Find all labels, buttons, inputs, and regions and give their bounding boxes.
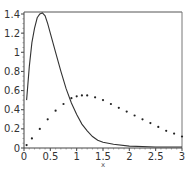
dotted-curve-point bbox=[81, 94, 83, 96]
chart: 00.511.522.53 00.20.40.60.811.21.4 x bbox=[0, 0, 196, 169]
dotted-curve-point bbox=[26, 144, 28, 146]
dotted-curve-point bbox=[55, 110, 57, 112]
dotted-curve-point bbox=[76, 95, 78, 97]
y-axis-ticks: 00.20.40.60.811.21.4 bbox=[4, 9, 24, 154]
dotted-curve-point bbox=[94, 96, 96, 98]
dotted-curve-point bbox=[149, 122, 151, 124]
dotted-curve-point bbox=[157, 126, 159, 128]
dotted-curve-point bbox=[110, 103, 112, 105]
dotted-curve-point bbox=[86, 94, 88, 96]
y-tick-label: 0 bbox=[14, 143, 20, 154]
x-tick-label: 0.5 bbox=[42, 151, 58, 162]
dotted-curve-point bbox=[102, 99, 104, 101]
y-tick-label: 0.6 bbox=[4, 85, 20, 96]
x-axis-label: x bbox=[101, 161, 105, 169]
x-tick-label: 0 bbox=[21, 151, 27, 162]
dotted-curve-point bbox=[141, 118, 143, 120]
dotted-curve-point bbox=[126, 111, 128, 113]
x-tick-label: 3 bbox=[179, 151, 185, 162]
x-tick-label: 2 bbox=[126, 151, 132, 162]
dotted-curve-point bbox=[47, 118, 49, 120]
dotted-curve-point bbox=[31, 137, 33, 139]
y-tick-label: 1.4 bbox=[4, 9, 20, 20]
y-tick-label: 1.2 bbox=[4, 28, 20, 39]
x-tick-label: 2.5 bbox=[148, 151, 164, 162]
dotted-curve-point bbox=[165, 130, 167, 132]
y-tick-label: 0.4 bbox=[4, 104, 20, 115]
dotted-curve-point bbox=[173, 133, 175, 135]
y-tick-label: 0.2 bbox=[4, 123, 20, 134]
y-tick-label: 1 bbox=[14, 47, 20, 58]
x-tick-label: 1 bbox=[73, 151, 79, 162]
x-axis-ticks: 00.511.522.53 bbox=[21, 148, 185, 162]
y-tick-label: 0.8 bbox=[4, 66, 20, 77]
data-series bbox=[26, 13, 184, 147]
dotted-curve-point bbox=[134, 114, 136, 116]
dotted-curve-point bbox=[70, 97, 72, 99]
dotted-curve-point bbox=[62, 103, 64, 105]
dotted-curve-point bbox=[181, 135, 183, 137]
dotted-curve-point bbox=[118, 107, 120, 109]
dotted-curve-point bbox=[39, 128, 41, 130]
